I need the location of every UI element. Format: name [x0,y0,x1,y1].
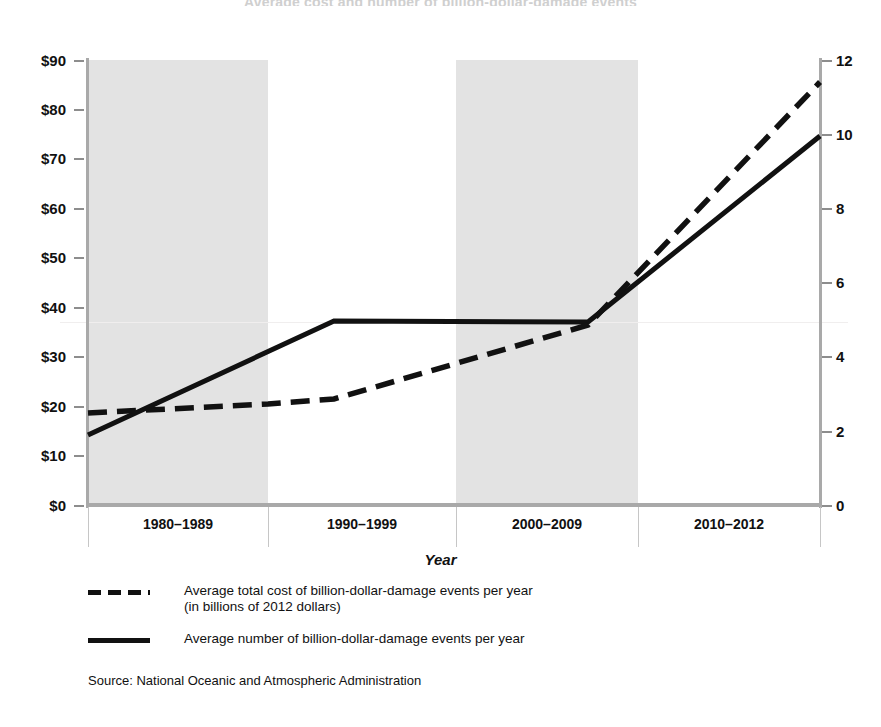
legend-item-average-number: Average number of billion-dollar-damage … [88,631,788,665]
right-tickmark [822,431,832,433]
legend-item-average-cost: Average total cost of billion-dollar-dam… [88,583,788,617]
right-axis-tick-label: 0 [836,498,878,513]
left-tickmark [74,208,84,210]
left-tickmark [74,257,84,259]
left-tickmark [74,109,84,111]
right-axis-tick-label: 6 [836,275,878,290]
left-axis-tick-label: $50 [0,250,66,265]
right-axis-tick-label: 2 [836,424,878,439]
right-tickmark [822,356,832,358]
source-note: Source: National Oceanic and Atmospheric… [88,673,421,688]
right-axis-tick-label: 10 [836,127,878,142]
legend-label-line1: Average number of billion-dollar-damage … [184,631,524,646]
left-axis-tick-label: $40 [0,300,66,315]
left-axis-tick-label: $0 [0,498,66,513]
midline-rule [60,322,848,323]
left-tickmark [74,158,84,160]
chart-title: Average cost and number of billion-dolla… [0,0,881,6]
dashed-line-swatch-icon [88,590,150,595]
right-axis-tick-label: 12 [836,53,878,68]
right-axis-tick-label: 8 [836,201,878,216]
plot-area [88,60,820,506]
left-tickmark [74,307,84,309]
right-tickmark [822,134,832,136]
bottom-axis-spine [86,503,822,507]
left-tickmark [74,505,84,507]
right-tickmark [822,282,832,284]
right-tickmark [822,60,832,62]
chart-legend: Average total cost of billion-dollar-dam… [88,583,788,665]
solid-line-swatch-icon [88,638,150,643]
right-tickmark [822,505,832,507]
left-axis-tick-label: $70 [0,151,66,166]
legend-label-line1: Average total cost of billion-dollar-dam… [184,583,533,598]
left-axis-tick-label: $10 [0,448,66,463]
left-axis-tick-label: $30 [0,349,66,364]
left-axis-tick-label: $20 [0,399,66,414]
x-axis-label-2000s: 2000–2009 [456,516,638,532]
right-axis-tick-label: 4 [836,349,878,364]
left-axis-spine [86,58,89,508]
chart-page: Average cost and number of billion-dolla… [0,0,881,727]
x-axis-divider [820,507,821,547]
x-axis-label-2010s: 2010–2012 [638,516,820,532]
x-axis-label-1980s: 1980–1989 [88,516,268,532]
x-axis-label-1990s: 1990–1999 [268,516,456,532]
left-axis-tick-label: $60 [0,201,66,216]
left-tickmark [74,455,84,457]
shaded-band-2000s [456,60,638,506]
shaded-band-1980s [88,60,268,506]
left-tickmark [74,406,84,408]
x-axis-title: Year [0,551,881,568]
left-axis-tick-label: $90 [0,53,66,68]
legend-label-line2: (in billions of 2012 dollars) [184,599,788,615]
left-tickmark [74,60,84,62]
right-tickmark [822,208,832,210]
left-axis-tick-label: $80 [0,102,66,117]
left-tickmark [74,356,84,358]
